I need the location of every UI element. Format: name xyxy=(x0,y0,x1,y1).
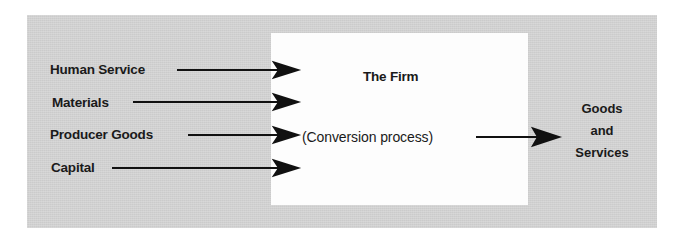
connector-layer xyxy=(0,0,684,245)
diagram-canvas: Human Service Materials Producer Goods C… xyxy=(0,0,684,245)
connector-producer-goods xyxy=(188,128,298,143)
connector-human-service xyxy=(177,63,298,78)
connector-capital xyxy=(112,161,298,176)
connector-output xyxy=(476,129,559,146)
arrow-right-icon xyxy=(533,129,559,146)
connector-materials xyxy=(133,95,298,110)
